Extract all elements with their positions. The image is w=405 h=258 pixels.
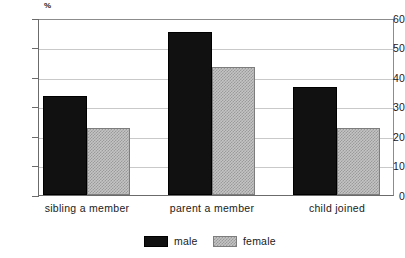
bar-female-child-joined: [337, 128, 380, 195]
y-tick-50: [32, 48, 38, 49]
y-tick-20: [32, 137, 38, 138]
gridline-50: [39, 49, 393, 50]
plot-area: [38, 19, 394, 196]
legend-label-male: male: [174, 236, 198, 247]
bar-female-sibling-a-member: [87, 128, 130, 195]
bar-male-sibling-a-member: [43, 96, 87, 195]
x-tick-label-parent-a-member: parent a member: [144, 202, 280, 214]
y-axis-line: [38, 19, 39, 197]
y-tick-label-40: 40: [377, 73, 405, 83]
legend-swatch-male-icon: [144, 236, 168, 247]
legend-item-male: male: [144, 234, 198, 248]
y-tick-label-20: 20: [377, 132, 405, 142]
bar-chart: % 60 50 40 30 20 10 0 sibling a member p…: [0, 0, 405, 258]
bar-male-parent-a-member: [168, 32, 212, 195]
bar-female-parent-a-member: [212, 67, 255, 195]
bar-male-child-joined: [293, 87, 337, 195]
legend-label-female: female: [243, 236, 276, 247]
y-tick-0: [32, 196, 38, 197]
legend-item-female: female: [213, 234, 276, 248]
y-tick-60: [32, 19, 38, 20]
y-tick-label-30: 30: [377, 102, 405, 112]
y-tick-40: [32, 78, 38, 79]
y-tick-label-0: 0: [377, 191, 405, 201]
y-tick-label-10: 10: [377, 161, 405, 171]
y-tick-label-50: 50: [377, 43, 405, 53]
x-tick-label-sibling-a-member: sibling a member: [19, 202, 155, 214]
legend: male female: [0, 234, 405, 250]
y-tick-30: [32, 107, 38, 108]
y-tick-10: [32, 166, 38, 167]
y-axis-unit-label: %: [44, 2, 51, 10]
legend-swatch-female-icon: [213, 236, 237, 247]
x-tick-label-child-joined: child joined: [269, 202, 405, 214]
y-tick-label-60: 60: [377, 14, 405, 24]
